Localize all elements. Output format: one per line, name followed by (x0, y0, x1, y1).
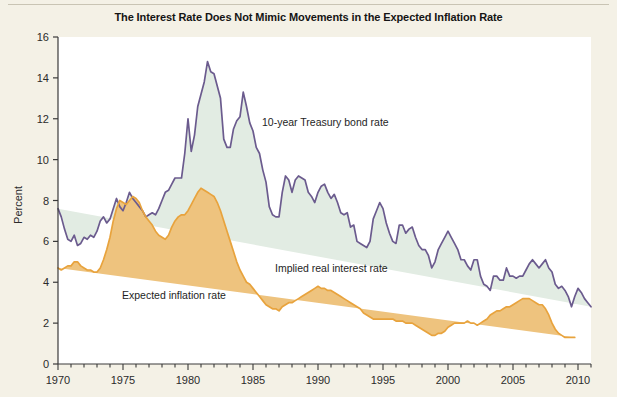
x-tick-label: 2000 (436, 374, 460, 386)
x-tick-label: 1975 (111, 374, 135, 386)
x-tick-label: 1985 (241, 374, 265, 386)
annotation-treasury: 10-year Treasury bond rate (262, 116, 389, 128)
y-tick-label: 8 (43, 195, 49, 207)
y-axis-label: Percent (12, 186, 24, 224)
y-tick-label: 6 (43, 235, 49, 247)
x-tick-label: 1970 (46, 374, 70, 386)
y-tick-label: 14 (37, 72, 49, 84)
x-tick-label: 2005 (501, 374, 525, 386)
y-tick-label: 12 (37, 113, 49, 125)
annotation-inflation: Expected inflation rate (122, 289, 226, 301)
x-tick-label: 1995 (371, 374, 395, 386)
chart-plot: 0246810121416197019751980198519901995200… (0, 0, 617, 397)
y-tick-label: 2 (43, 317, 49, 329)
y-tick-label: 0 (43, 358, 49, 370)
y-tick-label: 10 (37, 154, 49, 166)
y-tick-label: 16 (37, 31, 49, 43)
y-tick-label: 4 (43, 276, 49, 288)
x-tick-label: 1990 (306, 374, 330, 386)
x-tick-label: 2010 (566, 374, 590, 386)
chart-figure: The Interest Rate Does Not Mimic Movemen… (0, 0, 617, 397)
annotation-real-rate: Implied real interest rate (275, 262, 388, 274)
x-tick-label: 1980 (176, 374, 200, 386)
